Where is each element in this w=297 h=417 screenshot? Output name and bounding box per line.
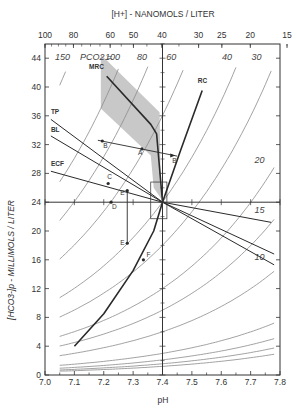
pco2-isopleths: 15010080604030201510 bbox=[55, 52, 274, 371]
point-label: F bbox=[146, 251, 150, 258]
y-tick-label: 20 bbox=[32, 226, 42, 236]
point-e bbox=[126, 242, 129, 245]
point-label: E' bbox=[120, 189, 126, 196]
point-label: B bbox=[103, 142, 107, 149]
isopleth-label-80: 80 bbox=[137, 52, 147, 62]
point-label: E bbox=[120, 239, 125, 246]
top-tick-label: 25 bbox=[217, 30, 227, 40]
point-label: C bbox=[107, 173, 112, 180]
annotation-ecf: ECF bbox=[51, 160, 64, 167]
isopleth-label-15: 15 bbox=[254, 205, 265, 215]
x-tick-label: 7.6 bbox=[215, 377, 227, 387]
isopleth-label-30: 30 bbox=[251, 52, 261, 62]
annotation-mrc: MRC bbox=[89, 63, 104, 70]
isopleth-label-150: 150 bbox=[55, 52, 70, 62]
y-tick-label: 24 bbox=[32, 197, 42, 207]
y-tick-label: 12 bbox=[32, 284, 42, 294]
annotation-bl: BL bbox=[51, 126, 60, 133]
y-tick-label: 40 bbox=[32, 82, 42, 92]
y-tick-label: 44 bbox=[32, 53, 42, 63]
y-tick-label: 0 bbox=[36, 370, 41, 380]
isopleth-label-20: 20 bbox=[253, 155, 264, 165]
top-tick-label: 100 bbox=[38, 30, 52, 40]
y-tick-label: 8 bbox=[36, 312, 41, 322]
y-axis-title: [HCO3-]p - MILLIMOLS / LITER bbox=[6, 200, 16, 321]
curve-lower-curve bbox=[74, 202, 162, 346]
acid-base-nomogram: 15010080604030201510 7.07.17.27.37.47.57… bbox=[0, 0, 297, 417]
y-tick-label: 28 bbox=[32, 168, 42, 178]
top-axis-title: [H+] - NANOMOLS / LITER bbox=[111, 9, 214, 19]
y-tick-label: 32 bbox=[32, 140, 42, 150]
pco2-label: PCO2 = bbox=[80, 52, 112, 62]
annotation-tp: TP bbox=[51, 108, 60, 115]
top-tick-label: 20 bbox=[246, 30, 256, 40]
top-tick-label: 50 bbox=[129, 30, 139, 40]
x-tick-label: 7.8 bbox=[274, 377, 286, 387]
top-tick-label: 60 bbox=[105, 30, 115, 40]
point-label: D bbox=[112, 203, 117, 210]
isopleth-label-60: 60 bbox=[166, 52, 176, 62]
y-tick-label: 36 bbox=[32, 111, 42, 121]
point-label: B' bbox=[172, 157, 178, 164]
top-tick-label: 80 bbox=[69, 30, 79, 40]
curve-rc bbox=[163, 91, 203, 203]
point-label: A bbox=[138, 149, 143, 156]
x-tick-label: 7.2 bbox=[98, 377, 110, 387]
annotation-rc: RC bbox=[198, 77, 208, 84]
top-tick-label: 30 bbox=[194, 30, 204, 40]
x-tick-label: 7.7 bbox=[245, 377, 257, 387]
point-f bbox=[142, 258, 145, 261]
top-tick-label: 15 bbox=[282, 30, 292, 40]
plot-frame: 7.07.17.27.37.47.57.67.77.80481216202428… bbox=[32, 30, 292, 387]
y-tick-label: 4 bbox=[36, 341, 41, 351]
y-tick-label: 16 bbox=[32, 255, 42, 265]
point-c bbox=[107, 182, 110, 185]
x-tick-label: 7.4 bbox=[157, 377, 169, 387]
x-tick-label: 7.3 bbox=[127, 377, 139, 387]
point-e-prime bbox=[126, 189, 129, 192]
isopleth-150 bbox=[60, 72, 66, 86]
x-tick-label: 7.1 bbox=[68, 377, 80, 387]
x-tick-label: 7.5 bbox=[186, 377, 198, 387]
isopleth-low bbox=[60, 339, 274, 369]
x-axis-title: pH bbox=[158, 395, 169, 405]
top-tick-label: 40 bbox=[157, 30, 167, 40]
isopleth-10 bbox=[60, 271, 274, 355]
isopleth-label-40: 40 bbox=[222, 52, 232, 62]
